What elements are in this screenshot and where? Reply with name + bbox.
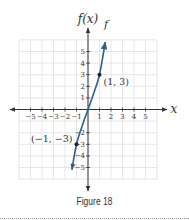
x-tick-label: −3: [48, 113, 58, 121]
y-tick-label: −5: [75, 164, 85, 172]
y-tick-label: 2: [81, 83, 85, 91]
x-tick-label: 5: [143, 113, 147, 121]
x-axis-label: x: [171, 102, 178, 116]
data-point: [98, 73, 102, 77]
y-tick-label: 5: [81, 48, 85, 56]
x-tick-label: −1: [71, 113, 81, 121]
x-tick-label: 1: [97, 113, 101, 121]
function-graph: −5−4−3−2−112345−5−4−3−212345 (1, 3)(−1, …: [0, 0, 189, 220]
y-tick-label: 1: [81, 94, 85, 102]
function-curve: [71, 42, 107, 170]
x-tick-label: −5: [25, 113, 35, 121]
x-tick-label: −2: [60, 113, 70, 121]
point-label: (−1, −3): [31, 133, 72, 144]
y-tick-label: 4: [81, 60, 86, 68]
curve-arrow-icon: [102, 42, 107, 48]
curve-label: f: [103, 18, 110, 31]
y-tick-label: −4: [75, 152, 86, 160]
x-tick-label: −4: [37, 113, 48, 121]
y-tick-label: 3: [81, 71, 85, 79]
data-point: [75, 142, 79, 146]
x-tick-label: 4: [132, 113, 137, 121]
divider: [0, 218, 189, 219]
x-tick-label: 3: [120, 113, 124, 121]
point-label: (1, 3): [104, 76, 130, 87]
curve-f: [72, 42, 105, 170]
y-axis-label: f(x): [77, 12, 99, 26]
x-tick-label: 2: [109, 113, 113, 121]
figure-caption: Figure 18: [14, 196, 175, 207]
